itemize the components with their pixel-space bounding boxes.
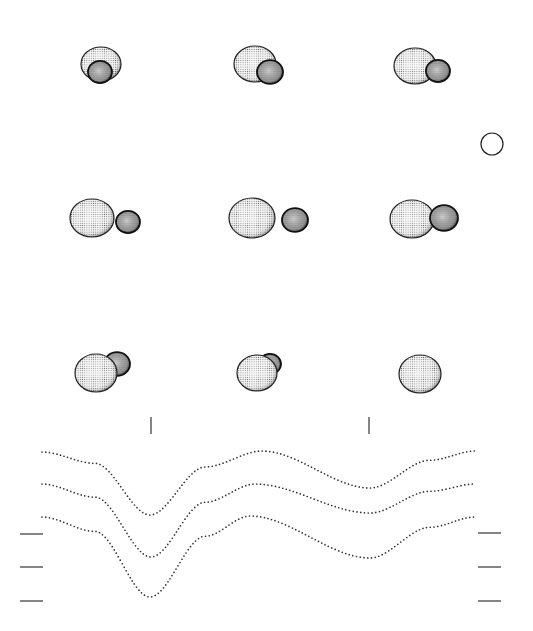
phase-frame — [70, 199, 140, 237]
phase-frame — [399, 355, 441, 393]
primary-star-outline — [237, 355, 277, 391]
secondary-star-outline — [430, 205, 458, 231]
primary-star-outline — [390, 200, 434, 238]
secondary-star-outline — [426, 60, 450, 82]
reference-circle-icon — [481, 133, 503, 155]
phase-frame — [234, 46, 283, 84]
figure — [0, 0, 533, 631]
phase-frame — [237, 354, 281, 391]
light-curve-curve-2 — [41, 483, 473, 558]
magnitude-ticks — [20, 533, 501, 601]
phase-markers — [151, 417, 369, 434]
figure-canvas — [0, 0, 533, 631]
secondary-star-outline — [88, 61, 112, 83]
primary-star-outline — [229, 198, 275, 238]
phase-frame — [229, 198, 308, 238]
primary-star-outline — [75, 354, 117, 392]
reference-circle — [481, 133, 503, 155]
secondary-star-outline — [116, 211, 140, 233]
secondary-star-outline — [257, 60, 283, 84]
light-curve-curve-1 — [41, 450, 475, 516]
binary-star-phase-grid — [70, 46, 458, 393]
phase-frame — [75, 352, 130, 392]
phase-frame — [81, 47, 121, 83]
phase-frame — [394, 48, 450, 84]
light-curve-curve-3 — [41, 515, 474, 598]
primary-star-outline — [399, 355, 441, 393]
secondary-star-outline — [282, 208, 308, 232]
primary-star-outline — [70, 199, 114, 237]
phase-frame — [390, 200, 458, 238]
light-curves — [41, 450, 475, 598]
